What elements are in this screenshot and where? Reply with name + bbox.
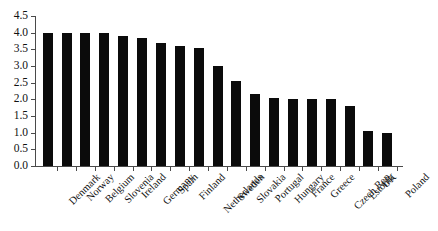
x-axis-tick-mark	[189, 167, 190, 171]
x-axis-tick-mark	[284, 167, 285, 171]
x-axis-tick-mark	[246, 167, 247, 171]
x-axis-tick-mark	[302, 167, 303, 171]
y-axis-tick-mark	[31, 133, 35, 134]
x-axis-tick-mark	[95, 167, 96, 171]
y-axis-tick-mark	[31, 166, 35, 167]
x-axis-tick-mark	[151, 167, 152, 171]
y-axis-tick-mark	[31, 99, 35, 100]
x-axis-tick-mark	[114, 167, 115, 171]
y-axis-tick-mark	[31, 66, 35, 67]
y-axis-tick-mark	[31, 83, 35, 84]
x-axis-tick-mark	[170, 167, 171, 171]
x-axis-tick-mark	[397, 167, 398, 171]
x-axis-tick-mark	[76, 167, 77, 171]
x-axis-tick-mark	[208, 167, 209, 171]
x-axis: DenmarkNorwayBelgiumSloveniaIrelandGerma…	[0, 0, 438, 231]
y-axis-tick-mark	[31, 49, 35, 50]
x-axis-tick-mark	[321, 167, 322, 171]
x-axis-tick-mark	[133, 167, 134, 171]
x-axis-tick-label: Poland	[404, 172, 432, 200]
x-axis-tick-mark	[359, 167, 360, 171]
x-axis-tick-mark	[57, 167, 58, 171]
y-axis-tick-mark	[31, 149, 35, 150]
y-axis-tick-mark	[31, 116, 35, 117]
bar-chart: 4.54.03.53.02.52.01.51.00.50.0 DenmarkNo…	[0, 0, 438, 231]
x-axis-tick-mark	[378, 167, 379, 171]
x-axis-tick-label: Finland	[197, 172, 227, 202]
y-axis-tick-mark	[31, 16, 35, 17]
x-axis-tick-mark	[340, 167, 341, 171]
y-axis-tick-mark	[31, 33, 35, 34]
x-axis-tick-mark	[265, 167, 266, 171]
x-axis-tick-mark	[227, 167, 228, 171]
